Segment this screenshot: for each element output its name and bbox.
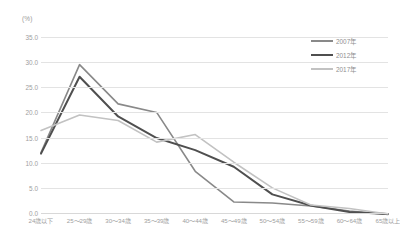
legend-swatch-icon — [311, 54, 333, 56]
legend-item[interactable]: 2007年 — [311, 34, 397, 48]
gridline — [41, 138, 388, 139]
legend-item[interactable]: 2017年 — [311, 62, 397, 76]
y-axis-tick: 30.0 — [4, 59, 38, 66]
x-axis-tick: 50～54歳 — [260, 216, 286, 225]
gridline — [41, 213, 388, 214]
gridline — [41, 112, 388, 113]
legend-swatch-icon — [311, 68, 333, 70]
y-axis-tick: 20.0 — [4, 109, 38, 116]
legend-item[interactable]: 2012年 — [311, 48, 397, 62]
legend: 2007年2012年2017年 — [311, 34, 397, 76]
x-axis-tick: 45～49歳 — [221, 216, 247, 225]
legend-label: 2017年 — [336, 65, 356, 74]
series-line — [41, 115, 388, 214]
legend-label: 2012年 — [336, 51, 356, 60]
y-axis-tick-labels: 35.030.025.020.015.010.05.00.0 — [0, 37, 38, 213]
x-axis-tick: 35～39歳 — [144, 216, 170, 225]
y-axis-tick: 25.0 — [4, 84, 38, 91]
gridline — [41, 188, 388, 189]
legend-label: 2007年 — [336, 37, 356, 46]
y-axis-unit-label: (%) — [22, 15, 33, 22]
gridline — [41, 163, 388, 164]
legend-swatch-icon — [311, 40, 333, 42]
x-axis-tick: 55～59歳 — [298, 216, 324, 225]
y-axis-tick: 5.0 — [4, 184, 38, 191]
x-axis-tick: 60～64歳 — [337, 216, 363, 225]
y-axis-tick: 10.0 — [4, 159, 38, 166]
x-axis-tick: 25～29歳 — [67, 216, 93, 225]
y-axis-tick: 15.0 — [4, 134, 38, 141]
x-axis-tick: 65歳以上 — [376, 216, 400, 225]
x-axis-tick: 30～34歳 — [105, 216, 131, 225]
series-line — [41, 77, 388, 214]
x-axis-tick-labels: 24歳以下25～29歳30～34歳35～39歳40～44歳45～49歳50～54… — [41, 216, 388, 230]
y-axis-tick: 35.0 — [4, 34, 38, 41]
x-axis-tick: 40～44歳 — [182, 216, 208, 225]
x-axis-tick: 24歳以下 — [29, 216, 54, 225]
gridline — [41, 87, 388, 88]
